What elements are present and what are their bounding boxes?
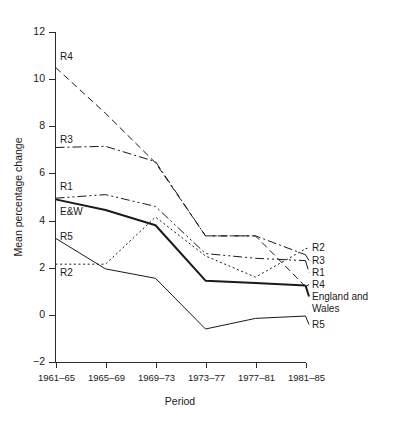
- series-line-england-and-wales: [56, 199, 306, 285]
- series-left-labels: R4R3R1E&WR5R2: [60, 51, 83, 278]
- y-tick-label: −2: [33, 355, 45, 367]
- x-tick-label: 1981–85: [288, 372, 325, 383]
- y-tick-label: 8: [39, 119, 45, 131]
- label-connector-r3: [306, 255, 310, 261]
- series-right-label-r5: R5: [312, 319, 325, 330]
- y-axis-ticks: [49, 33, 56, 363]
- y-tick-label: 6: [39, 166, 45, 178]
- y-tick-label: 2: [39, 261, 45, 273]
- series-line-r2: [56, 217, 306, 277]
- x-axis-title: Period: [165, 395, 196, 407]
- y-axis-tick-labels: −2024681012: [33, 25, 45, 367]
- series-line-r3: [56, 146, 306, 254]
- series-left-label-r2: R2: [60, 267, 73, 278]
- line-chart-svg: −2024681012 1961–651965–691969–731973–77…: [0, 0, 399, 422]
- x-axis-tick-labels: 1961–651965–691969–731973–771977–811981–…: [38, 372, 325, 383]
- chart-figure: −2024681012 1961–651965–691969–731973–77…: [0, 0, 399, 422]
- series-line-r1: [56, 195, 306, 261]
- data-series-group: [56, 67, 306, 329]
- label-connector-england-and-wales: [306, 285, 310, 296]
- x-tick-label: 1961–65: [38, 372, 75, 383]
- x-axis-ticks: [57, 363, 307, 369]
- y-axis-title: Mean percentage change: [12, 137, 24, 256]
- y-tick-label: 12: [33, 25, 45, 37]
- series-right-labels: R2R3R1R4England andWalesR5: [306, 242, 369, 330]
- label-connector-r5: [306, 316, 310, 324]
- series-right-label-england-and-wales-line2: Wales: [312, 303, 339, 314]
- x-tick-label: 1969–73: [138, 372, 175, 383]
- series-left-label-r5: R5: [60, 231, 73, 242]
- axes-group: [56, 32, 306, 363]
- series-right-label-r2: R2: [312, 242, 325, 253]
- x-tick-label: 1977–81: [238, 372, 275, 383]
- series-right-label-r3: R3: [312, 255, 325, 266]
- series-right-label-england-and-wales: England and: [312, 291, 368, 302]
- series-right-label-r4: R4: [312, 279, 325, 290]
- series-left-label-england-and-wales: E&W: [60, 206, 83, 217]
- series-right-label-r1: R1: [312, 267, 325, 278]
- label-connector-r1: [306, 261, 310, 273]
- x-tick-label: 1973–77: [188, 372, 225, 383]
- series-left-label-r3: R3: [60, 134, 73, 145]
- series-left-label-r4: R4: [60, 51, 73, 62]
- series-left-label-r1: R1: [60, 181, 73, 192]
- y-tick-label: 10: [33, 72, 45, 84]
- x-tick-label: 1965–69: [88, 372, 125, 383]
- label-connector-r2: [306, 248, 310, 249]
- y-tick-label: 0: [39, 308, 45, 320]
- y-tick-label: 4: [39, 214, 45, 226]
